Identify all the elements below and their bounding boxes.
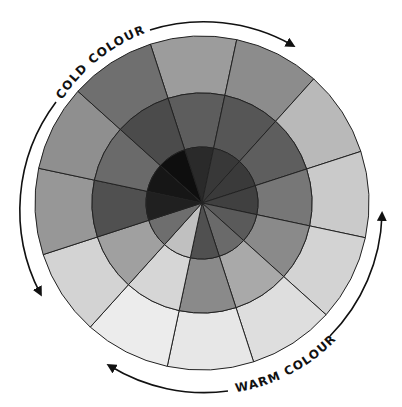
colour-wheel-svg: COLD COLOURS WARM COLOURS [0, 0, 402, 407]
colour-wheel-diagram: COLD COLOURS WARM COLOURS [0, 0, 402, 407]
inner-ring [146, 147, 258, 259]
